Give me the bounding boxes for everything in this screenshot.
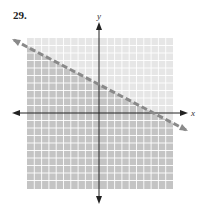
coordinate-graph: x y [0,0,201,212]
boundary-arrow-right-icon [179,124,188,131]
boundary-arrow-left-icon [12,39,21,46]
y-axis-down-arrow-icon [96,196,102,204]
y-axis-label: y [96,11,101,21]
y-axis-up-arrow-icon [96,22,102,30]
x-axis-left-arrow-icon [12,110,20,116]
x-axis-label: x [190,108,195,118]
x-axis-right-arrow-icon [180,110,188,116]
